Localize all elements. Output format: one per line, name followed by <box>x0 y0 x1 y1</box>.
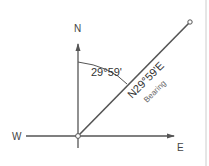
angle-label: 29°59' <box>91 66 122 78</box>
bearing-diagram: N W E 29°59' N29°59'E Bearing <box>0 0 209 166</box>
end-point <box>188 20 192 24</box>
east-label: E <box>177 142 184 153</box>
bearing-line <box>78 22 190 136</box>
west-label: W <box>12 131 22 142</box>
origin-point <box>76 134 81 139</box>
north-label: N <box>74 23 81 34</box>
